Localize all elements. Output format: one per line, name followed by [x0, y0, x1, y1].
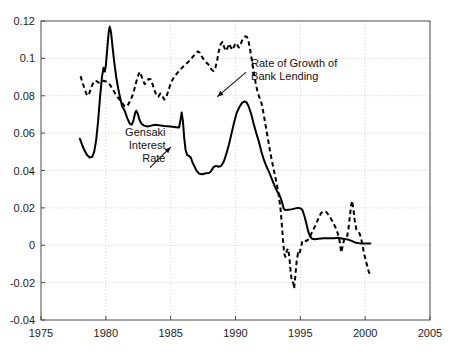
x-tick-label: 1975	[29, 327, 53, 339]
x-tick-label: 2005	[418, 327, 442, 339]
annotation-line: Rate of Growth of	[251, 57, 338, 69]
x-tick-label: 1990	[223, 327, 247, 339]
y-tick-label: 0.04	[14, 165, 35, 177]
annotation-line: Rate	[142, 152, 165, 164]
line-chart: -0.04-0.0200.020.040.060.080.10.12 19751…	[0, 0, 451, 356]
x-tick-label: 1995	[288, 327, 312, 339]
x-tick-label: 2000	[353, 327, 377, 339]
y-tick-label: 0	[29, 239, 35, 251]
y-tick-label: 0.02	[14, 202, 35, 214]
y-tick-label: 0.08	[14, 90, 35, 102]
y-tick-label: 0.1	[20, 52, 35, 64]
x-axis-tick-labels: 1975198019851990199520002005	[29, 327, 442, 339]
figure-container: -0.04-0.0200.020.040.060.080.10.12 19751…	[0, 0, 451, 356]
annotation-line: Interest	[129, 139, 166, 151]
y-tick-label: -0.04	[10, 314, 35, 326]
y-tick-label: -0.02	[10, 277, 35, 289]
y-axis-tick-labels: -0.04-0.0200.020.040.060.080.10.12	[10, 15, 35, 326]
x-tick-label: 1985	[158, 327, 182, 339]
y-tick-label: 0.12	[14, 15, 35, 27]
x-tick-label: 1980	[94, 327, 118, 339]
annotation-line: Gensaki	[125, 126, 165, 138]
y-tick-label: 0.06	[14, 127, 35, 139]
annotation-line: Bank Lending	[251, 70, 318, 82]
